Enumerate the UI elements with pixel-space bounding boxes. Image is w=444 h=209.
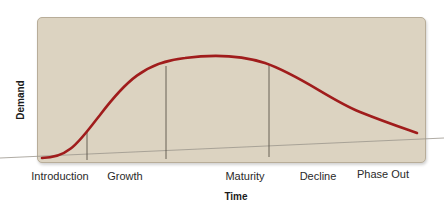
stage-label-growth: Growth (107, 170, 142, 182)
stage-label-maturity: Maturity (225, 170, 264, 182)
product-life-cycle-diagram: Introduction Growth Maturity Decline Pha… (0, 0, 444, 209)
stage-label-phase-out: Phase Out (357, 168, 409, 180)
demand-curve (42, 56, 417, 158)
y-axis-title: Demand (15, 80, 26, 119)
x-axis-title: Time (224, 191, 247, 202)
stage-label-introduction: Introduction (31, 170, 88, 182)
x-axis-line (0, 138, 444, 158)
stage-label-decline: Decline (300, 170, 337, 182)
